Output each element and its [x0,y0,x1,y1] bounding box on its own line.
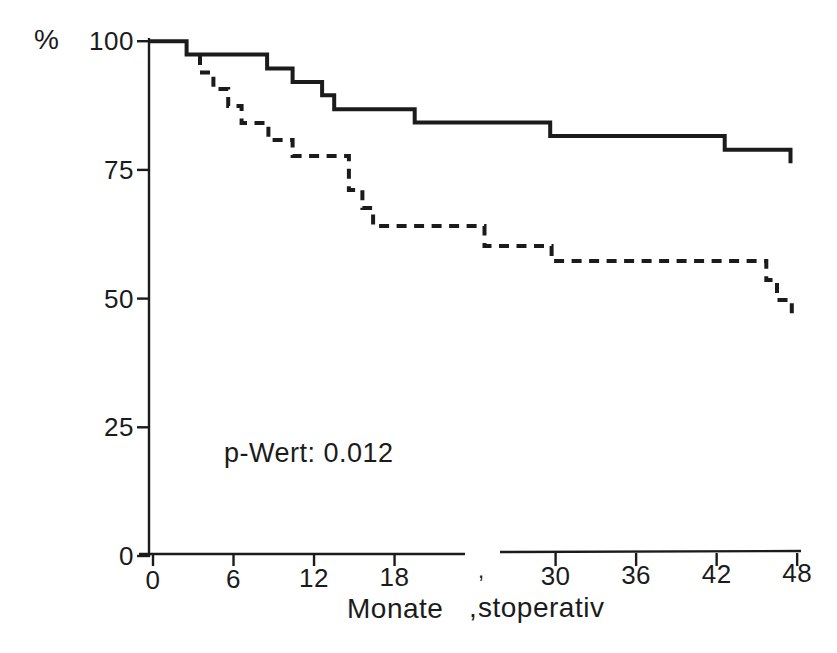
survival-chart-canvas: % p-Wert: 0.012 Monate , stoperativ , 02… [0,0,837,653]
y-tick-label: 75 [104,155,134,185]
solid-curve [149,41,791,163]
x-axis-label-part1: Monate [347,593,443,624]
x-tick-label: 36 [621,560,651,590]
y-tick-label: 100 [89,26,134,56]
x-axis-segment-right [500,551,801,552]
x-tick-label: 30 [541,561,571,591]
y-tick-label: 50 [104,284,134,314]
survival-chart-figure: % p-Wert: 0.012 Monate , stoperativ , 02… [0,0,837,653]
comma-artifact-label: , [469,592,477,623]
p-value-annotation: p-Wert: 0.012 [224,438,394,468]
x-axis-label-part2: stoperativ [478,592,604,623]
axis-comma-artifact: , [478,558,484,583]
y-tick-label: 25 [104,412,134,442]
x-tick-label: 18 [380,562,410,592]
chart-generated-content: 025507510006121830364248 [89,26,812,595]
x-tick-label: 12 [299,563,329,593]
y-tick-label: 0 [119,541,134,571]
x-tick-label: 48 [782,558,812,588]
dashed-curve [200,55,792,317]
x-tick-label: 6 [226,564,241,594]
x-tick-label: 42 [702,559,732,589]
y-axis-unit-label: % [34,24,59,55]
x-tick-label: 0 [146,565,161,595]
